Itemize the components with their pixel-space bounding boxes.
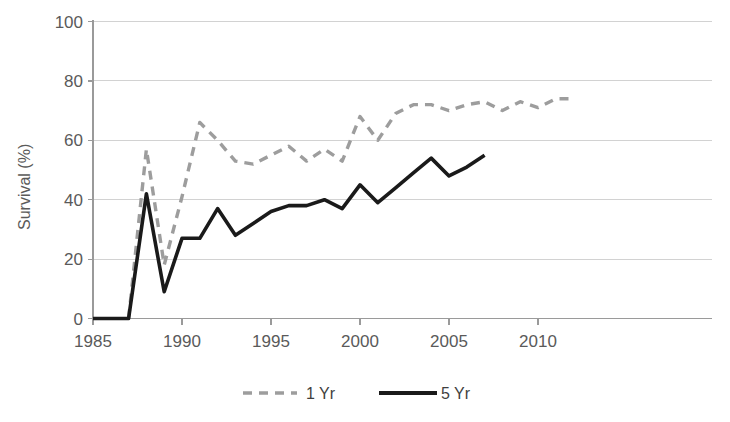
x-tick-label-1985: 1985 [74,332,112,351]
y-tick-label-80: 80 [64,72,83,91]
x-tick-label-1995: 1995 [252,332,290,351]
legend-label-5yr: 5 Yr [441,385,471,402]
y-tick-label-60: 60 [64,131,83,150]
y-tick-label-100: 100 [55,13,83,32]
legend-label-1yr: 1 Yr [306,385,336,402]
survival-chart-figure: 020406080100 198519901995200020052010 Su… [0,0,730,422]
y-tick-label-20: 20 [64,250,83,269]
chart-background [0,0,730,422]
x-tick-label-2010: 2010 [519,332,557,351]
chart-canvas: 020406080100 198519901995200020052010 Su… [0,0,730,422]
y-tick-label-40: 40 [64,191,83,210]
x-tick-label-2000: 2000 [341,332,379,351]
y-tick-label-0: 0 [74,310,83,329]
x-tick-label-1990: 1990 [163,332,201,351]
y-axis-title: Survival (%) [16,144,33,230]
x-tick-label-2005: 2005 [430,332,468,351]
